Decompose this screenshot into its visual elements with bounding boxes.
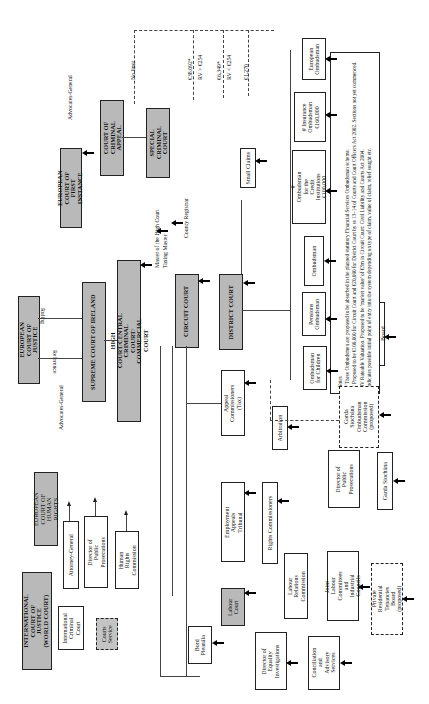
reference-label: Reference bbox=[52, 350, 58, 374]
entry-arrow-icon bbox=[244, 380, 256, 386]
arbitration-label: Arbitration bbox=[277, 415, 283, 442]
dpp-intl-box: Director of Public Prosecutions bbox=[84, 516, 108, 588]
entry-arrow-icon bbox=[171, 220, 183, 226]
lrc-label: Labour Relations Commission bbox=[287, 571, 306, 601]
county-registrar-label: County Registrar bbox=[183, 198, 189, 238]
entry-arrow-icon bbox=[82, 150, 94, 156]
ombudsman-label: Ombudsman bbox=[311, 246, 317, 277]
circuit-court-label: CIRCUIT COURT bbox=[184, 285, 191, 336]
eat-box: Employment Appeals Tribunal bbox=[221, 482, 245, 562]
attorney-general-box: Attorney-General bbox=[63, 521, 79, 589]
garda-box: Garda Síochána bbox=[377, 452, 393, 510]
hrc-label: Human Rights Commission bbox=[118, 545, 137, 575]
prtb-box: Private Residential Tenancies Board (pro… bbox=[371, 563, 403, 635]
odei-label: Director of Equality Investigations bbox=[262, 644, 281, 678]
eat-label: Employment Appeals Tribunal bbox=[224, 506, 243, 537]
claim-v1b: RV > €254 bbox=[197, 55, 203, 80]
entry-arrow-icon bbox=[277, 498, 289, 504]
notes-box: Notes # These Ombudsmen are proposed to … bbox=[330, 52, 380, 394]
claim-v3: €1,270 bbox=[243, 64, 249, 80]
cfi-label: EUROPEAN COURT OF FIRST INSTANCE bbox=[58, 170, 84, 205]
courts-service-label: Courts Service bbox=[101, 624, 114, 644]
entry-arrow-icon bbox=[212, 640, 224, 646]
note-3: RV Rateable Valuation. Proposed to be 'm… bbox=[359, 58, 365, 388]
pensions-ombudsman-label: Pensions Ombudsman bbox=[308, 299, 321, 330]
courts-service-box: Courts Service bbox=[96, 618, 118, 650]
claim-v2: €6,349* bbox=[216, 61, 222, 80]
entry-arrow-icon bbox=[255, 158, 267, 164]
attorney-general-label: Attorney-General bbox=[68, 534, 74, 576]
special-criminal-court-label: SPECIAL CRIMINAL COURT bbox=[148, 127, 168, 160]
entry-arrow-icon bbox=[156, 228, 168, 234]
entry-arrow-icon bbox=[326, 368, 338, 374]
bord-pleanala-box: Bord Pleanála bbox=[188, 626, 212, 664]
entry-arrow-icon bbox=[340, 660, 352, 666]
entry-arrow-icon bbox=[286, 660, 298, 666]
garda-ombudsman-label: Garda Síochána Ombudsman Commission (pro… bbox=[343, 398, 374, 436]
insurance-ombudsman-label: # Insurance Ombudsman €160,000 bbox=[301, 102, 320, 133]
dpp-box: Director of Public Prosecutions bbox=[328, 450, 360, 508]
entry-arrow-icon bbox=[140, 262, 152, 268]
garda-ombudsman-box: Garda Síochána Ombudsman Commission (pro… bbox=[339, 386, 379, 448]
high-court-box: HIGH COURT/CENTRAL CRIMINAL COURT/ COMME… bbox=[117, 260, 141, 422]
district-court-box: DISTRICT COURT bbox=[219, 274, 243, 350]
entry-arrow-icon bbox=[384, 334, 396, 340]
claim-v2b: RV < €254 bbox=[226, 55, 232, 80]
jlc-label: Joint-Labour Committees and Industrial C… bbox=[324, 571, 362, 601]
appeal-commissioners-label: Appeal Commissioners (Tax) bbox=[224, 384, 243, 421]
entry-arrow-icon bbox=[198, 278, 210, 284]
special-criminal-court-box: SPECIAL CRIMINAL COURT bbox=[146, 108, 170, 178]
note-4: Indicates possible initial point of entr… bbox=[366, 58, 372, 388]
taxing-master-label: Taxing Master bbox=[162, 234, 168, 268]
small-claims-label: Small Claims bbox=[245, 152, 251, 185]
icj-box: INTERNATIONAL COURT OF JUSTICE (WORLD CO… bbox=[22, 572, 52, 670]
court-criminal-appeal-label: COURT OF CRIMINAL APPEAL bbox=[102, 122, 122, 155]
no-limit-label: No limit bbox=[130, 61, 136, 81]
ecj-box: EUROPEAN COURT OF JUSTICE bbox=[18, 296, 40, 384]
icj-label: INTERNATIONAL COURT OF JUSTICE (WORLD CO… bbox=[24, 594, 50, 647]
claim-v1: €38,092* bbox=[187, 58, 193, 80]
district-court-label: DISTRICT COURT bbox=[228, 285, 235, 339]
jlc-box: Joint-Labour Committees and Industrial C… bbox=[327, 551, 359, 621]
dpp-label: Director of Public Prosecutions bbox=[335, 464, 354, 495]
entry-arrow-icon bbox=[393, 478, 405, 484]
entry-arrow-icon bbox=[325, 112, 337, 118]
court-criminal-appeal-box: COURT OF CRIMINAL APPEAL bbox=[100, 100, 124, 176]
european-ombudsman-label: European Ombudsman bbox=[308, 44, 321, 75]
note-1: # These Ombudsmen are proposed to be abs… bbox=[344, 58, 350, 388]
advocates-general-ecj: Advocates-General bbox=[58, 385, 64, 430]
ombudsman-children-label: Ombudsman for Children bbox=[309, 353, 322, 384]
advocates-general-cfi: Advocates-General bbox=[67, 75, 73, 120]
dpp-intl-label: Director of Public Prosecutions bbox=[87, 537, 106, 568]
garda-label: Garda Síochána bbox=[382, 462, 388, 500]
insurance-ombudsman-box: # Insurance Ombudsman €160,000 bbox=[294, 92, 326, 142]
pensions-ombudsman-box: Pensions Ombudsman bbox=[302, 292, 326, 336]
labour-court-box: Labour Court bbox=[221, 588, 245, 626]
entry-arrow-icon bbox=[358, 584, 370, 590]
entry-arrow-icon bbox=[243, 280, 255, 286]
entry-arrow-icon bbox=[325, 316, 337, 322]
bord-pleanala-label: Bord Pleanála bbox=[194, 634, 207, 656]
echr-box: EUROPEAN COURT OF HUMAN RIGHTS bbox=[34, 472, 58, 546]
small-claims-box: Small Claims bbox=[240, 148, 256, 188]
supreme-court-box: SUPREME COURT OF IRELAND bbox=[82, 282, 106, 402]
supreme-court-label: SUPREME COURT OF IRELAND bbox=[91, 294, 98, 389]
icc-box: International Criminal Court bbox=[58, 606, 84, 650]
ruling-label: Ruling bbox=[40, 308, 46, 324]
arbitration-box: Arbitration bbox=[272, 406, 288, 450]
european-ombudsman-box: European Ombudsman bbox=[302, 38, 326, 80]
hrc-box: Human Rights Commission bbox=[115, 531, 139, 589]
rights-commissioners-label: Rights Commissioners bbox=[267, 496, 273, 551]
icc-label: International Criminal Court bbox=[62, 613, 81, 644]
master-high-court-label: Master of the High Court bbox=[154, 209, 160, 268]
entry-arrow-icon bbox=[287, 424, 299, 430]
ombudsman-children-box: Ombudsman for Children bbox=[303, 346, 327, 390]
cas-box: Conciliation and Advisory Services bbox=[308, 636, 340, 690]
echr-label: EUROPEAN COURT OF HUMAN RIGHTS bbox=[33, 492, 59, 526]
note-2: * Proposed to be €100,000 for Circuit Co… bbox=[351, 58, 357, 388]
entry-arrow-icon bbox=[244, 590, 256, 596]
credit-ombudsman-label: # Ombudsman for the Credit Institutions … bbox=[290, 171, 328, 203]
rights-commissioners-box: Rights Commissioners bbox=[262, 482, 278, 564]
odei-box: Director of Equality Investigations bbox=[255, 632, 287, 690]
lrc-box: Labour Relations Commission bbox=[284, 553, 308, 619]
